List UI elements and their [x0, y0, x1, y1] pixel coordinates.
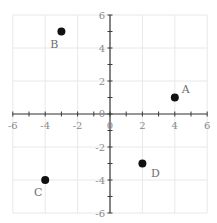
point-c: [41, 176, 49, 184]
point-d: [138, 160, 146, 168]
y-tick-label: 0: [99, 108, 105, 119]
data-points: ABCD: [34, 28, 191, 200]
y-tick-label: -6: [95, 208, 105, 219]
point-b: [57, 28, 65, 36]
y-tick-label: 2: [99, 76, 105, 87]
point-label-a: A: [181, 83, 191, 96]
y-tick-label: 6: [99, 10, 105, 21]
x-tick-label: 0: [107, 120, 113, 131]
x-tick-label: 6: [204, 120, 210, 131]
x-tick-label: 2: [139, 120, 145, 131]
y-tick-label: 4: [99, 43, 105, 54]
x-tick-label: 4: [172, 120, 178, 131]
x-tick-label: -2: [73, 120, 83, 131]
point-label-b: B: [50, 38, 58, 51]
point-label-d: D: [151, 167, 160, 180]
coordinate-plane: -6-4-20246-6-4-20246 ABCD: [0, 0, 217, 223]
y-tick-label: -2: [95, 142, 105, 153]
x-tick-label: -4: [40, 120, 50, 131]
y-tick-label: -4: [95, 175, 105, 186]
x-tick-label: -6: [8, 120, 18, 131]
point-a: [171, 94, 179, 102]
point-label-c: C: [34, 186, 42, 199]
